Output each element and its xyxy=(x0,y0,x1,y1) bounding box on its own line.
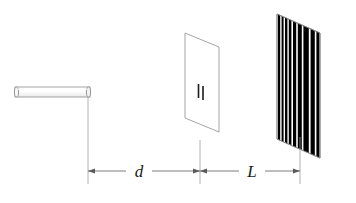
fringe-band-7 xyxy=(311,0,315,186)
interference-screen xyxy=(277,0,341,197)
double-slit-diagram: d L xyxy=(0,0,356,203)
fringe-band-13 xyxy=(334,9,336,195)
fringe-band-12 xyxy=(331,8,333,194)
barrier-slit-right xyxy=(202,86,204,100)
diagram-canvas: d L xyxy=(0,0,356,203)
dimension-label-d: d xyxy=(135,162,144,181)
laser-source xyxy=(14,87,90,97)
double-slit-barrier xyxy=(185,33,219,132)
barrier-slit-left xyxy=(198,84,200,98)
dimension-d-arrow-left xyxy=(88,168,95,173)
dimension-L-arrow-left xyxy=(200,168,207,173)
fringe-band-10 xyxy=(325,5,327,191)
dimension-d-arrow-right xyxy=(193,168,200,173)
laser-left-cap xyxy=(14,87,18,97)
dimension-label-L: L xyxy=(246,162,256,181)
fringe-band-0 xyxy=(278,0,280,170)
fringe-band-8 xyxy=(316,1,319,187)
dimension-L-arrow-right xyxy=(293,168,300,173)
fringe-band-14 xyxy=(337,10,339,196)
barrier-panel xyxy=(185,33,219,132)
fringe-band-2 xyxy=(285,0,287,174)
fringe-band-9 xyxy=(321,3,323,189)
fringe-band-11 xyxy=(328,7,330,193)
laser-right-cap xyxy=(86,87,90,97)
fringe-band-3 xyxy=(289,0,292,175)
fringe-band-1 xyxy=(282,0,284,172)
laser-body xyxy=(15,87,90,97)
fringe-band-4 xyxy=(293,0,296,177)
fringe-band-15 xyxy=(339,12,340,198)
